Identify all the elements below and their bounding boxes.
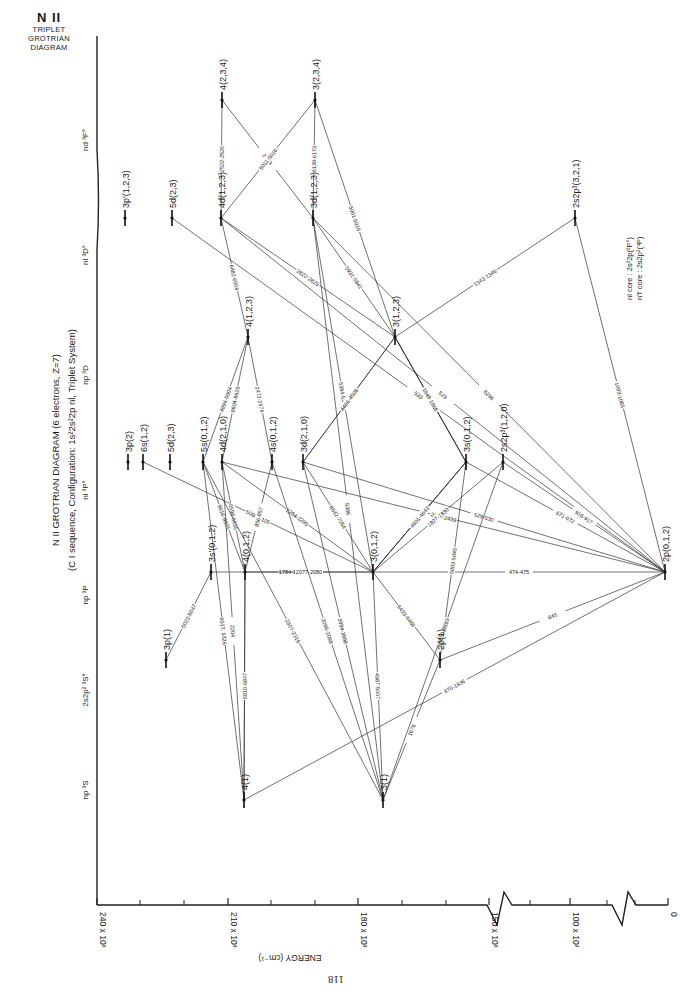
wavelength-label: 6433-6468 <box>396 604 417 629</box>
level-node <box>219 216 222 219</box>
column-label: 2s2p² ³S° <box>81 673 90 706</box>
wavelength-label: 1083-1085 <box>614 382 626 409</box>
diagram-subtitle: (C I sequence, Configuration: 1s²2s²2p n… <box>66 329 77 571</box>
level-label: 3p'(1,2,3) <box>121 170 131 208</box>
level-node <box>242 798 245 801</box>
level-node <box>164 658 167 661</box>
level-node <box>126 460 129 463</box>
level-node <box>393 335 396 338</box>
level-node <box>168 460 171 463</box>
wavelength-label: 1343-1346 <box>472 268 497 288</box>
column-label: nl ³P° <box>81 480 90 500</box>
wavelength-label: 6810-6847 <box>242 673 248 699</box>
level-node <box>313 98 316 101</box>
level-node <box>464 460 467 463</box>
level-label: 2p(1) <box>436 629 446 650</box>
level-label: 4s(0,1,2) <box>268 416 278 452</box>
level-label: 3s(0,1,2) <box>462 416 472 452</box>
wavelength-label: 2307-2316 <box>284 618 302 644</box>
level-node <box>220 98 223 101</box>
level-node <box>381 798 384 801</box>
level-label: 3p(1) <box>162 629 172 650</box>
wavelength-label: 4987-5007 <box>374 673 381 700</box>
level-label: 4d(2,1,0) <box>218 416 228 452</box>
level-node <box>573 216 576 219</box>
level-label: 3p(2) <box>124 431 134 452</box>
level-node <box>301 460 304 463</box>
wavelength-label: 3994-3998 <box>337 618 349 645</box>
wavelength-label: 2204 <box>229 625 236 638</box>
level-node <box>243 570 246 573</box>
energy-levels: 4(2,3,4)3(2,3,4)3p'(1,2,3)5d(2,3)4d(1,2,… <box>121 59 671 808</box>
core-note-2: n'l' core : 2s2p²(⁴P) <box>635 236 644 300</box>
axis-tick-label: 240 x 10³ <box>98 912 108 948</box>
level-label: 3(0,1,2) <box>369 531 379 562</box>
level-label: 3(1) <box>379 774 389 790</box>
level-label: 5s(0,1,2) <box>199 416 209 452</box>
wavelength-label: 2522-2526 <box>219 146 225 172</box>
wavelength-label: 6139-6173 <box>311 146 317 172</box>
diagram-title: N II GROTRIAN DIAGRAM (6 electrons, Z=7) <box>50 354 61 546</box>
level-node <box>209 570 212 573</box>
level-label: 3d(1,2,3) <box>309 172 319 208</box>
grotrian-diagram: 240 x 10³210 x 10³180 x 10³150 x 10³100 … <box>0 0 680 999</box>
level-label: 5d(2,3) <box>168 179 178 208</box>
energy-axis-label: ENERGY (cm⁻¹) <box>258 953 321 963</box>
level-label: 4d(1,2,3) <box>217 172 227 208</box>
energy-axis-line <box>97 892 668 925</box>
wavelength-label: 2284-2295 <box>285 507 310 527</box>
column-label: np ³P <box>81 585 90 604</box>
wavelength-label: 474-475 <box>509 569 529 575</box>
core-note-1: nl core : 2s²2p(²P°) <box>625 236 634 300</box>
level-node <box>141 460 144 463</box>
level-node <box>438 658 441 661</box>
level-label: 2s2p³(1,2,0) <box>499 403 509 452</box>
level-node <box>663 570 666 573</box>
axis-ticks <box>97 898 668 905</box>
level-node <box>311 216 314 219</box>
wavelength-label: 2822-2826 <box>295 268 320 288</box>
level-label: 4(0,1,2) <box>241 531 251 562</box>
wavelength-label: 2472-2474 <box>254 386 265 413</box>
column-label: nl ³D° <box>81 245 90 265</box>
level-node <box>123 216 126 219</box>
wavelength-label: 6482-6504 <box>228 264 240 291</box>
wavelength-label: 529-530 <box>473 511 494 523</box>
level-label: 2p(0,1,2) <box>661 526 671 562</box>
wavelength-label: 5931-5941 <box>344 265 364 290</box>
level-label: 4(2,3,4) <box>218 59 228 90</box>
level-node <box>371 570 374 573</box>
axis-tick-label: 180 x 10³ <box>359 912 369 948</box>
wavelength-label: 2096-2098 <box>320 618 334 645</box>
column-label: np ³D <box>81 365 90 385</box>
axis-tick-labels: 240 x 10³210 x 10³180 x 10³150 x 10³100 … <box>98 912 679 948</box>
axis-tick-label: 0 <box>669 912 679 917</box>
level-label: 5d(2,3) <box>166 423 176 452</box>
frame-left-line <box>97 36 99 905</box>
level-label: 2s2p³(3,2,1) <box>571 159 581 208</box>
column-labels: np ³S2s2p² ³S°np ³Pnl ³P°np ³Dnl ³D°nd ³… <box>81 129 90 800</box>
column-label: np ³S <box>81 780 90 799</box>
level-label: 3(2,3,4) <box>311 59 321 90</box>
level-label: 3d(2,1,0) <box>299 416 309 452</box>
page-number: 118 <box>328 974 344 986</box>
level-label: 3(1,2,3) <box>391 296 401 327</box>
level-label: 3s'(0,1,2) <box>207 525 217 562</box>
axis-tick-label: 210 x 10³ <box>229 912 239 948</box>
axis-tick-label: 150 x 10³ <box>490 912 500 948</box>
level-node <box>246 335 249 338</box>
wavelength-label: 5022-5047 <box>180 603 197 629</box>
level-node <box>170 216 173 219</box>
level-node <box>501 460 504 463</box>
level-label: 4(1,2,3) <box>244 296 254 327</box>
level-node <box>220 460 223 463</box>
wavelength-label: 870-1836 <box>443 678 466 694</box>
level-node <box>270 460 273 463</box>
level-label: 4(1) <box>240 774 250 790</box>
level-node <box>201 460 204 463</box>
column-label: nd ³F° <box>81 129 90 151</box>
level-label: 6s(1,2) <box>139 424 149 452</box>
axis-tick-label: 100 x 10³ <box>571 912 581 948</box>
